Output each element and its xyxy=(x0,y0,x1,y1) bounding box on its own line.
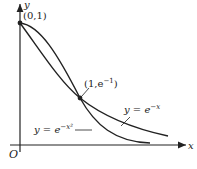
diagram-canvas: y x O (0,1) (1,e−1) y = e−x y = e−x² xyxy=(0,0,197,169)
x-axis-label: x xyxy=(188,140,194,151)
curve-exp-neg-x-squared-label: y = e−x² xyxy=(33,123,73,135)
y-axis-label: y xyxy=(23,0,30,10)
point-1-e-label: (1,e−1) xyxy=(84,77,118,89)
curve-exp-neg-x-label: y = e−x xyxy=(123,103,160,115)
origin-label: O xyxy=(9,148,18,161)
point-0-1 xyxy=(18,21,23,26)
point-1-e-inv xyxy=(78,96,83,101)
point-0-1-label: (0,1) xyxy=(23,10,47,21)
leader-point-1 xyxy=(82,88,89,96)
